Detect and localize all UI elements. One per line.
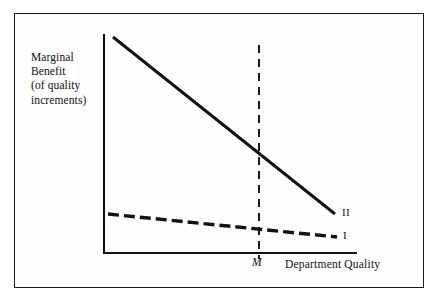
plot-area: [0, 0, 441, 302]
y-axis-title-line-4: increments): [31, 93, 117, 107]
curve-ii-label: II: [342, 206, 350, 218]
y-axis-title-line-3: (of quality: [31, 78, 117, 92]
figure-canvas: Marginal Benefit (of quality increments)…: [0, 0, 441, 302]
curve-ii-line: [113, 37, 335, 214]
curve-i-line: [108, 214, 337, 237]
y-axis-title-line-2: Benefit: [31, 64, 117, 78]
curve-i-label: I: [343, 229, 347, 241]
y-axis-title: Marginal Benefit (of quality increments): [31, 50, 117, 107]
x-axis-title: Department Quality: [285, 258, 380, 270]
x-axis-tick-label-m: M: [252, 256, 262, 268]
y-axis-title-line-1: Marginal: [31, 50, 117, 64]
